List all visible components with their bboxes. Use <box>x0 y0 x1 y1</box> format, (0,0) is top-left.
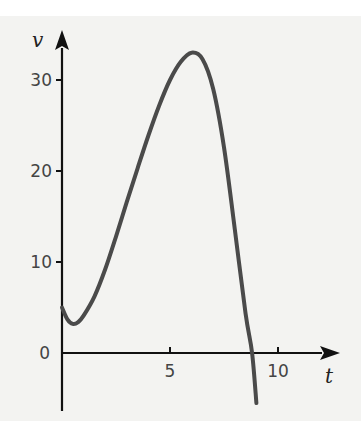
x-tick-label: 5 <box>165 361 176 381</box>
chart-svg: 0102030510 t v <box>0 0 361 421</box>
x-tick-label: 10 <box>267 361 289 381</box>
series-line-v <box>62 53 256 403</box>
y-axis-arrowhead <box>55 30 69 50</box>
y-axis-label: v <box>32 28 44 52</box>
y-tick-label: 20 <box>30 161 52 181</box>
x-axis-label: t <box>325 364 334 388</box>
x-axis-arrowhead <box>320 346 340 360</box>
chart-container: 0102030510 t v <box>0 0 361 421</box>
y-tick-label: 30 <box>30 70 52 90</box>
y-tick-label: 0 <box>39 343 50 363</box>
y-tick-label: 10 <box>30 252 52 272</box>
